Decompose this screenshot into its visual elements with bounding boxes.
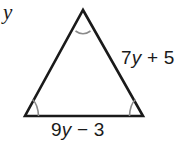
side-right-variable: y [132,47,142,68]
side-base-operator: − [77,119,88,140]
side-length-label-right: 7y + 5 [121,48,175,67]
side-base-coefficient: 9 [51,119,62,140]
triangle-figure: y 7y + 5 9y − 3 [0,0,186,150]
side-base-variable: y [62,119,72,140]
side-right-coefficient: 7 [121,47,132,68]
side-right-operator: + [147,47,158,68]
variable-label-y: y [3,2,12,23]
side-length-label-base: 9y − 3 [51,120,105,139]
side-base-constant: 3 [94,119,105,140]
side-right-constant: 5 [164,47,175,68]
